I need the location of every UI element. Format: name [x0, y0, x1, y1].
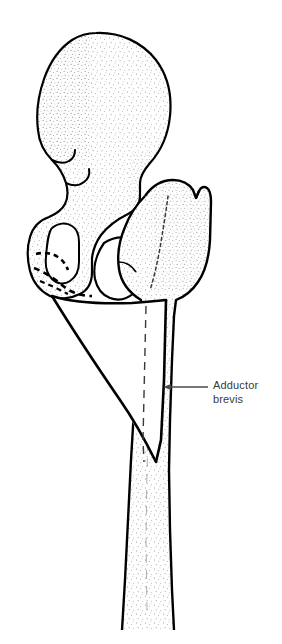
adductor-brevis-label-line-1: Adductor	[213, 379, 258, 393]
pubic-ring	[46, 224, 79, 284]
pubis	[46, 224, 79, 284]
adductor-brevis-leader-line	[163, 384, 208, 390]
adductor-brevis-label-line-2: brevis	[213, 393, 258, 407]
adductor-brevis-label: Adductor brevis	[213, 379, 258, 406]
anatomical-figure: Adductor brevis	[0, 0, 282, 644]
anatomy-illustration	[0, 0, 282, 644]
adductor-brevis-muscle	[52, 296, 166, 462]
